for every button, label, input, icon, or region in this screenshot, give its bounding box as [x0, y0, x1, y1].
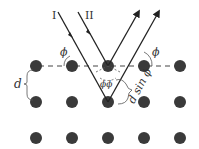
ray-2-label: II [85, 10, 94, 21]
angle-label-inner: ϕϕ [100, 80, 112, 89]
spacing-label: d [14, 78, 22, 90]
ray-2-outgoing [108, 13, 138, 66]
bragg-diagram [0, 0, 199, 149]
ray-1-label: I [52, 10, 56, 21]
d-brace [24, 70, 33, 100]
angle-label-right: ϕ [152, 47, 160, 58]
angle-label-left: ϕ [60, 47, 68, 58]
